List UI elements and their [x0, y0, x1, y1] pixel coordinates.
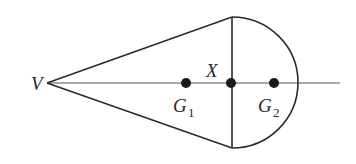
label-g2: G	[258, 95, 272, 116]
label-g1-subscript: 1	[188, 105, 195, 120]
label-x: X	[205, 60, 219, 81]
label-v: V	[31, 73, 45, 94]
point-g1	[181, 78, 191, 88]
cone-lower-edge	[47, 83, 232, 148]
point-x	[226, 78, 236, 88]
cone-upper-edge	[47, 17, 232, 83]
point-g2	[269, 78, 279, 88]
cone-hemisphere-diagram: V X G 1 G 2	[0, 0, 356, 164]
label-g1: G	[173, 95, 187, 116]
label-g2-subscript: 2	[273, 105, 280, 120]
